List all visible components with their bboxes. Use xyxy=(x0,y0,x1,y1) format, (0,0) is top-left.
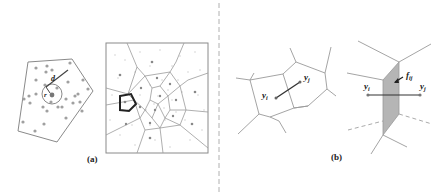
label-yi: yi xyxy=(261,90,268,101)
pentagon-point-cloud: d r xyxy=(18,59,93,142)
label-face-yi: yi xyxy=(363,81,370,92)
adjacent-voronoi-cells: yi yj xyxy=(236,47,336,134)
label-face-fij: fij xyxy=(406,70,413,81)
label-face-yj: yj xyxy=(419,81,426,92)
distance-line-d xyxy=(46,70,68,87)
voronoi-tessellation xyxy=(106,43,208,153)
label-r: r xyxy=(44,91,47,99)
label-yj: yj xyxy=(303,72,310,83)
shared-face xyxy=(383,62,399,135)
shared-face-diagram: yi yj fij xyxy=(347,41,432,154)
connecting-line-yi-yj xyxy=(276,82,300,98)
caption-b: (b) xyxy=(331,152,342,162)
label-d: d xyxy=(51,74,56,83)
figure-canvas: d r xyxy=(0,0,447,196)
caption-a: (a) xyxy=(87,154,98,164)
